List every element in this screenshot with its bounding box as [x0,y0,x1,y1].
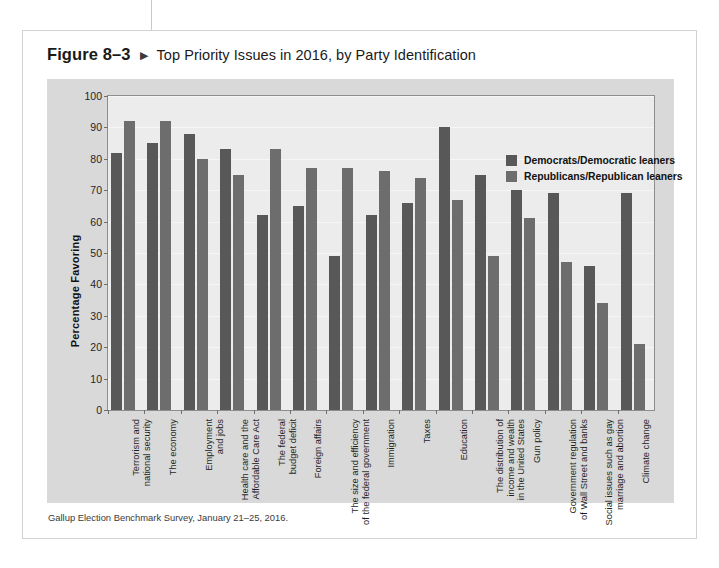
y-axis-tick-label: 0 [96,404,102,416]
bar-democrats[interactable] [584,266,595,410]
bar-republicans[interactable] [306,168,317,410]
x-axis-category-label: Social issues such as gay marriage and a… [604,419,625,568]
x-axis-category-label: The size and efficiency of the federal g… [350,419,371,568]
bar-democrats[interactable] [366,215,377,410]
x-axis-tick-mark [290,410,291,414]
y-axis-title: Percentage Favoring [69,235,81,348]
chart-panel: Percentage Favoring 01020304050607080901… [47,79,674,503]
y-axis-tick-label: 10 [90,373,102,385]
bar-democrats[interactable] [147,143,158,410]
figure-heading: Figure 8–3 ▶ Top Priority Issues in 2016… [47,45,476,64]
bar-group [436,96,472,410]
bar-group [108,96,144,410]
x-axis-category-label: The economy [168,419,179,568]
legend: Democrats/Democratic leaners Republicans… [506,155,682,187]
bar-group [181,96,217,410]
legend-label-republicans: Republicans/Republican leaners [524,171,682,182]
legend-label-democrats: Democrats/Democratic leaners [524,155,675,166]
legend-swatch-democrats [506,155,517,166]
bar-democrats[interactable] [402,203,413,410]
x-axis-tick-mark [618,410,619,414]
bar-republicans[interactable] [270,149,281,410]
legend-swatch-republicans [506,171,517,182]
bar-republicans[interactable] [160,121,171,410]
bar-democrats[interactable] [548,193,559,410]
figure-title: Top Priority Issues in 2016, by Party Id… [157,47,476,63]
bar-republicans[interactable] [342,168,353,410]
x-axis-category-label: Gun policy [532,419,543,568]
page-gutter-rule [151,0,152,30]
y-axis-tick-label: 100 [84,90,102,102]
x-axis-tick-mark [399,410,400,414]
bar-republicans[interactable] [124,121,135,410]
bar-republicans[interactable] [524,218,535,410]
x-axis-category-label: The distribution of income and wealth in… [495,419,527,568]
plot-area: 0102030405060708090100 Democrats/Democra… [107,95,655,411]
y-axis-tick-label: 40 [90,278,102,290]
x-axis-tick-mark [581,410,582,414]
bar-republicans[interactable] [488,256,499,410]
bar-series-layer [108,96,654,410]
bar-democrats[interactable] [439,127,450,410]
bar-group [217,96,253,410]
bar-group [581,96,617,410]
legend-entry-democrats: Democrats/Democratic leaners [506,155,682,166]
bar-democrats[interactable] [329,256,340,410]
x-axis-category-label: Foreign affairs [313,419,324,568]
bar-republicans[interactable] [452,200,463,410]
y-axis-tick-label: 80 [90,153,102,165]
bar-republicans[interactable] [634,344,645,410]
x-axis-category-label: Health care and the Affordable Care Act [240,419,261,568]
bar-republicans[interactable] [379,171,390,410]
bar-democrats[interactable] [111,153,122,410]
figure-source-note: Gallup Election Benchmark Survey, Januar… [48,512,288,523]
bar-republicans[interactable] [561,262,572,410]
bar-democrats[interactable] [257,215,268,410]
x-axis-tick-mark [545,410,546,414]
x-axis-tick-mark [436,410,437,414]
x-axis-category-label: Government regulation of Wall Street and… [568,419,589,568]
x-axis-category-label: Immigration [386,419,397,568]
bar-group [144,96,180,410]
y-axis-tick-label: 90 [90,121,102,133]
x-axis-tick-mark [108,410,109,414]
bar-democrats[interactable] [220,149,231,410]
y-axis-tick-label: 70 [90,184,102,196]
bar-republicans[interactable] [597,303,608,410]
bar-group [472,96,508,410]
figure-number: Figure 8–3 [47,45,131,64]
x-axis-tick-mark [181,410,182,414]
bar-republicans[interactable] [233,175,244,411]
bar-group [508,96,544,410]
y-axis-tick-label: 30 [90,310,102,322]
x-axis-category-label: Education [459,419,470,568]
x-axis-tick-mark [254,410,255,414]
x-axis-category-label: Climate change [641,419,652,568]
bar-group [618,96,654,410]
x-axis-tick-mark [363,410,364,414]
bar-democrats[interactable] [621,193,632,410]
bar-democrats[interactable] [293,206,304,410]
legend-entry-republicans: Republicans/Republican leaners [506,171,682,182]
bar-democrats[interactable] [475,175,486,411]
bar-republicans[interactable] [197,159,208,410]
y-axis-tick-label: 50 [90,247,102,259]
x-axis-tick-mark [217,410,218,414]
y-axis-tick-label: 60 [90,216,102,228]
bar-group [363,96,399,410]
bar-group [326,96,362,410]
x-axis-category-label: The federal budget deficit [277,419,298,568]
bar-republicans[interactable] [415,178,426,410]
x-axis-tick-mark [472,410,473,414]
bar-democrats[interactable] [511,190,522,410]
bar-group [254,96,290,410]
x-axis-category-label: Terrorism and national security [131,419,152,568]
bar-group [399,96,435,410]
bar-group [545,96,581,410]
x-axis-category-label: Taxes [422,419,433,568]
figure-card: Figure 8–3 ▶ Top Priority Issues in 2016… [22,30,697,539]
x-axis-tick-mark [508,410,509,414]
x-axis-category-label: Employment and jobs [204,419,225,568]
bar-democrats[interactable] [184,134,195,410]
x-axis-tick-mark [144,410,145,414]
